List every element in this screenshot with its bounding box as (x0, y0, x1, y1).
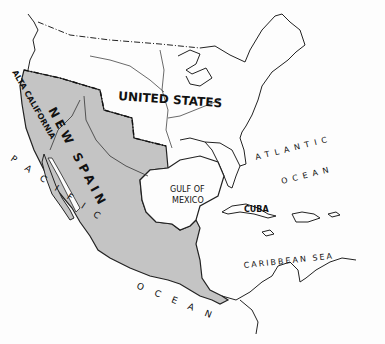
great-lakes (178, 50, 212, 86)
map-new-spain: UNITED STATES NEW SPAIN ALTA CALIFORNIA … (0, 0, 385, 344)
us-east-coast (180, 14, 305, 166)
hispaniola (292, 212, 320, 222)
us-canada-border (38, 22, 200, 48)
label-atlantic-ocean: OCEAN (280, 164, 334, 186)
south-america-coast (240, 300, 258, 334)
map-canvas: UNITED STATES NEW SPAIN ALTA CALIFORNIA … (0, 0, 385, 344)
label-united-states: UNITED STATES (118, 89, 223, 110)
label-gulf-line1: GULF OF (170, 185, 205, 194)
label-atlantic: ATLANTIC (254, 134, 333, 162)
us-west-coast (28, 14, 38, 70)
jamaica (262, 230, 274, 236)
label-gulf-line2: MEXICO (172, 196, 204, 205)
label-cuba: CUBA (244, 205, 269, 214)
label-pacific-ocean: OCEAN (135, 281, 224, 325)
puerto-rico (328, 212, 340, 217)
missouri-river (90, 56, 164, 92)
